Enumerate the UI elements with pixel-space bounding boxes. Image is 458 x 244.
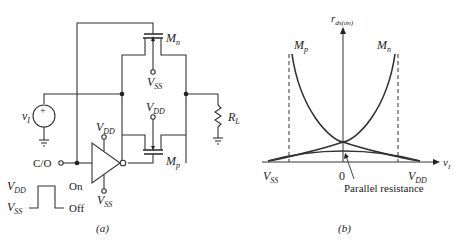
pulse-high-label: VDD bbox=[7, 179, 26, 195]
curve-mp bbox=[292, 54, 420, 161]
control-terminal bbox=[59, 161, 63, 165]
pulse-low-label: VSS bbox=[7, 200, 22, 216]
inverter-bubble bbox=[120, 160, 126, 166]
mp-label: Mp bbox=[165, 154, 180, 170]
output-wire bbox=[186, 94, 218, 105]
mn-left-wire bbox=[122, 42, 145, 163]
x-axis-label: vI bbox=[443, 156, 451, 171]
y-axis-label: rds(on) bbox=[331, 12, 354, 27]
input-wire bbox=[44, 94, 122, 104]
caption-b: (b) bbox=[338, 222, 351, 235]
curve-mp-label: Mp bbox=[293, 38, 308, 54]
gate-wire-n bbox=[77, 23, 153, 163]
control-pulse bbox=[29, 186, 64, 208]
inverter bbox=[92, 143, 120, 183]
load-resistor bbox=[215, 105, 221, 138]
off-label: Off bbox=[69, 202, 84, 214]
panel-b-plot bbox=[262, 30, 436, 179]
curve-mn bbox=[268, 54, 395, 161]
curve-mn-label: Mn bbox=[376, 38, 391, 54]
mn-right-wire bbox=[161, 42, 186, 163]
vdd-mid-label: VDD bbox=[146, 100, 165, 116]
tick-zero: 0 bbox=[339, 169, 345, 183]
annotation-arrow bbox=[346, 156, 354, 179]
caption-a: (a) bbox=[96, 222, 109, 235]
on-label: On bbox=[69, 180, 83, 192]
inverter-vdd-label: VDD bbox=[96, 120, 115, 136]
parallel-resistance-label: Parallel resistance bbox=[344, 182, 424, 194]
rl-label: RL bbox=[227, 110, 240, 126]
vss-top-label: VSS bbox=[147, 75, 162, 91]
control-label: C/O bbox=[33, 157, 51, 169]
curve-parallel bbox=[268, 151, 420, 161]
transmission-gate-figure: Mn Mp VSS VDD vI + RL C/O VDD VSS VDD VS… bbox=[0, 0, 458, 244]
panel-a-circuit bbox=[29, 23, 223, 208]
inverter-vss-label: VSS bbox=[97, 193, 112, 209]
tick-vss: VSS bbox=[263, 169, 278, 185]
mn-label: Mn bbox=[165, 31, 180, 47]
vss-terminal bbox=[151, 70, 155, 74]
source-label: vI bbox=[22, 109, 30, 125]
source-plus: + bbox=[40, 105, 46, 116]
